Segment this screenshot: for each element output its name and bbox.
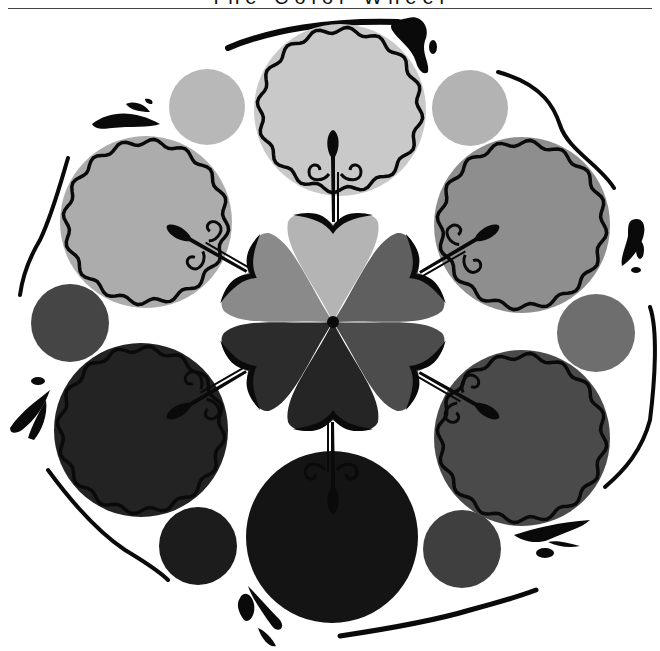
small-circle-bottom-left — [159, 507, 237, 585]
small-circle-left — [31, 284, 109, 362]
small-circle-top-right — [432, 70, 508, 146]
large-circle-lower-left — [54, 343, 228, 517]
small-circle-right — [557, 294, 635, 372]
large-circle-upper-right — [434, 137, 610, 313]
large-circle-top — [254, 24, 426, 196]
center-heart-petals — [216, 213, 451, 431]
large-circle-lower-right — [434, 350, 610, 526]
large-circle-upper-left — [60, 136, 232, 308]
small-circle-bottom-right — [423, 510, 501, 588]
small-circle-top-left — [169, 69, 245, 145]
center-dot — [327, 316, 339, 328]
color-wheel-illustration — [0, 0, 660, 651]
